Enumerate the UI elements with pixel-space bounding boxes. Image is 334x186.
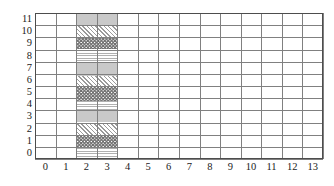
y-tick-label: 9 — [2, 38, 32, 48]
y-tick-label: 5 — [2, 87, 32, 97]
y-tick-label: 6 — [2, 75, 32, 85]
y-tick-label: 8 — [2, 51, 32, 61]
x-tick-label: 13 — [301, 161, 325, 173]
y-axis-tick-labels: 01234567891011 — [0, 13, 32, 159]
y-tick-label: 3 — [2, 111, 32, 121]
x-axis-tick-labels: 012345678910111213 — [35, 161, 323, 181]
y-tick-label: 7 — [2, 63, 32, 73]
y-tick-label: 0 — [2, 148, 32, 158]
y-tick-label: 11 — [2, 14, 32, 24]
y-tick-label: 4 — [2, 99, 32, 109]
y-tick-label: 1 — [2, 136, 32, 146]
y-tick-label: 2 — [2, 124, 32, 134]
grid-lines — [35, 13, 323, 159]
plot-area — [35, 13, 323, 159]
y-tick-label: 10 — [2, 26, 32, 36]
figure-root: 01234567891011 012345678910111213 — [0, 0, 334, 186]
